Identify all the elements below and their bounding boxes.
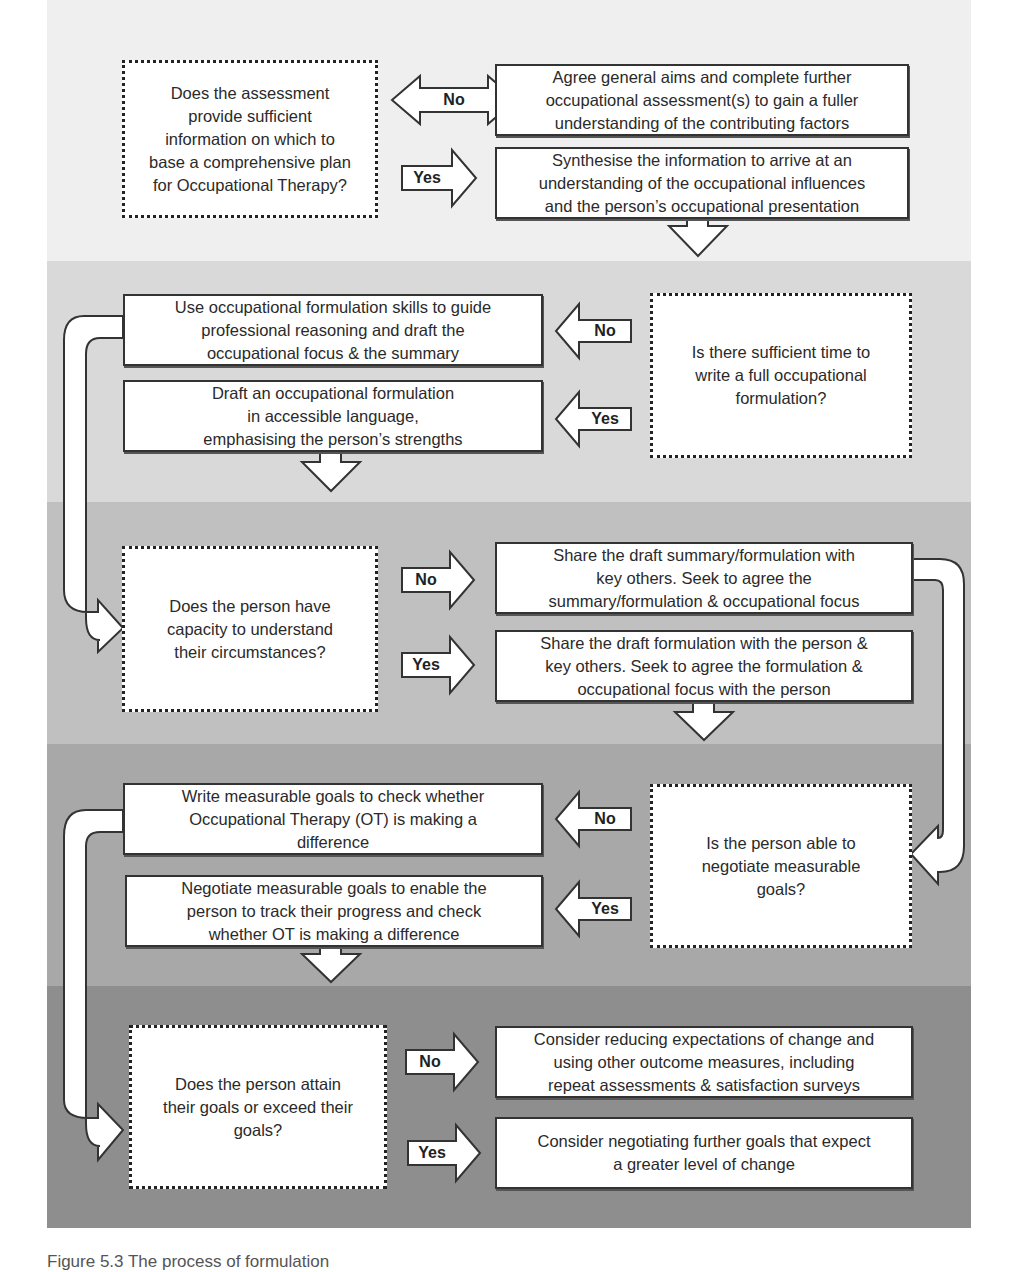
decision-box-attain-goals: Does the person attain their goals or ex… (129, 1025, 387, 1189)
yes-label: Yes (402, 653, 450, 677)
decision-text: Does the person have capacity to underst… (167, 595, 333, 664)
action-box-synthesise: Synthesise the information to arrive at … (495, 147, 909, 219)
action-box-write-goals: Write measurable goals to check whether … (123, 783, 543, 855)
decision-box-negotiate-goals: Is the person able to negotiate measurab… (650, 784, 912, 948)
no-label: No (579, 808, 631, 830)
action-box-further-goals: Consider negotiating further goals that … (495, 1117, 913, 1189)
down-arrow-icon (675, 702, 733, 740)
action-text: Consider negotiating further goals that … (538, 1130, 871, 1176)
yes-label: Yes (579, 408, 631, 430)
no-label: No (402, 568, 450, 592)
decision-box-assessment-sufficient: Does the assessment provide sufficient i… (122, 60, 378, 218)
down-arrow-icon (302, 944, 360, 982)
action-text: Share the draft summary/formulation with… (549, 544, 860, 613)
connector-arrow-icon (64, 316, 123, 652)
action-box-further-assessment: Agree general aims and complete further … (495, 64, 909, 136)
decision-box-capacity: Does the person have capacity to underst… (122, 546, 378, 712)
decision-text: Does the assessment provide sufficient i… (149, 82, 351, 197)
action-box-draft-formulation: Draft an occupational formulation in acc… (123, 380, 543, 452)
action-box-share-key-others: Share the draft summary/formulation with… (495, 542, 913, 614)
yes-label: Yes (579, 898, 631, 920)
action-text: Use occupational formulation skills to g… (175, 296, 491, 365)
yes-label: Yes (408, 1141, 456, 1165)
decision-box-sufficient-time: Is there sufficient time to write a full… (650, 293, 912, 458)
figure-caption: Figure 5.3 The process of formulation (47, 1252, 329, 1272)
action-text: Draft an occupational formulation in acc… (203, 382, 462, 451)
action-box-negotiate-goals: Negotiate measurable goals to enable the… (125, 875, 543, 947)
action-text: Negotiate measurable goals to enable the… (181, 877, 486, 946)
action-text: Write measurable goals to check whether … (182, 785, 484, 854)
action-text: Synthesise the information to arrive at … (539, 149, 866, 218)
action-text: Share the draft formulation with the per… (540, 632, 867, 701)
decision-text: Is the person able to negotiate measurab… (702, 832, 861, 901)
decision-text: Does the person attain their goals or ex… (163, 1073, 353, 1142)
connector-arrow-icon (911, 559, 964, 884)
action-box-reduce-expectations: Consider reducing expectations of change… (495, 1026, 913, 1098)
decision-text: Is there sufficient time to write a full… (692, 341, 871, 410)
no-label: No (420, 88, 488, 112)
down-arrow-icon (302, 452, 360, 491)
connector-arrow-icon (64, 810, 123, 1160)
action-box-draft-summary: Use occupational formulation skills to g… (123, 294, 543, 366)
action-box-share-with-person: Share the draft formulation with the per… (495, 630, 913, 702)
action-text: Consider reducing expectations of change… (534, 1028, 874, 1097)
yes-label: Yes (402, 166, 452, 190)
down-arrow-icon (669, 216, 727, 256)
no-label: No (579, 320, 631, 342)
action-text: Agree general aims and complete further … (546, 66, 859, 135)
no-label: No (406, 1050, 454, 1074)
